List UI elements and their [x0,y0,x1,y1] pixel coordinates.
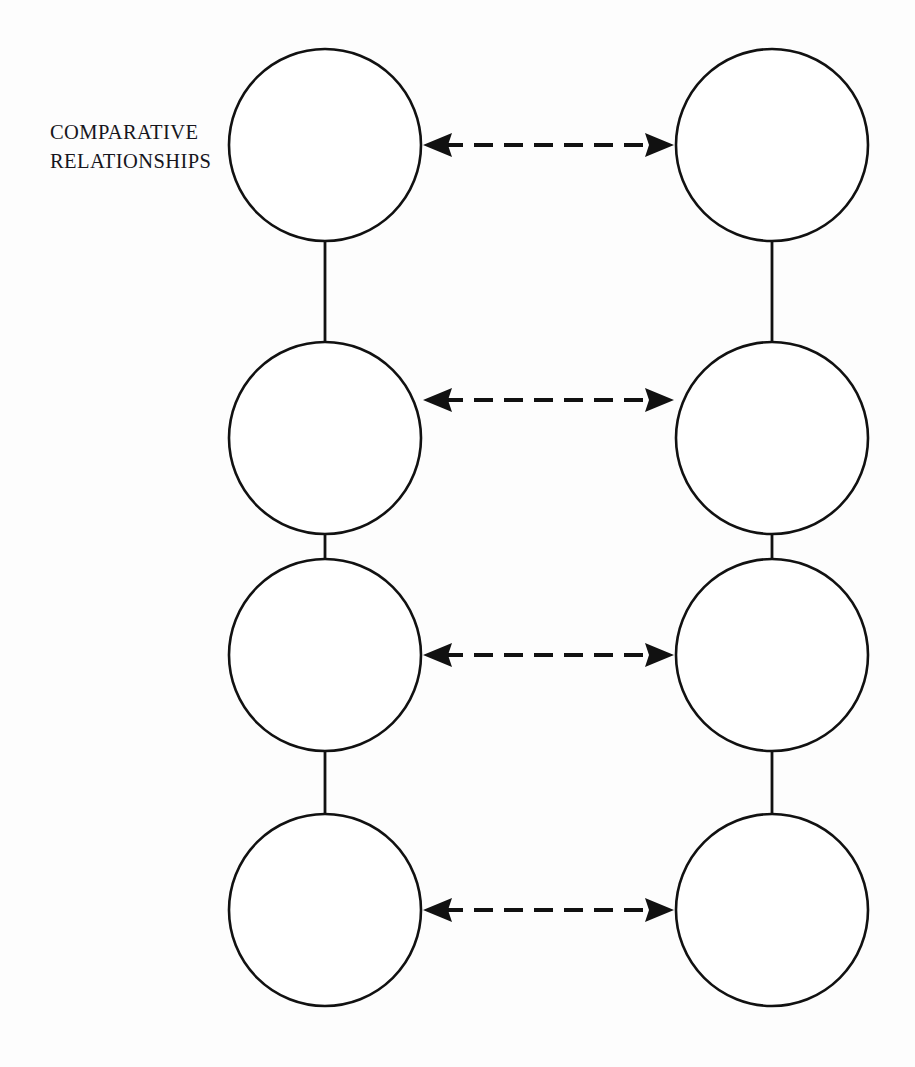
arrow-head-left-row-2 [423,388,452,412]
arrow-head-right-row-2 [645,388,674,412]
arrow-head-left-row-4 [423,898,452,922]
node-right-1[interactable] [676,49,868,241]
comparative-relationships-label: COMPARATIVE RELATIONSHIPS [50,118,250,176]
arrow-head-right-row-3 [645,643,674,667]
arrow-head-right-row-1 [645,133,674,157]
nodes-left-column [229,49,421,1006]
node-right-4[interactable] [676,814,868,1006]
node-left-2[interactable] [229,342,421,534]
node-left-3[interactable] [229,559,421,751]
node-left-4[interactable] [229,814,421,1006]
node-right-3[interactable] [676,559,868,751]
comparative-arrow-row-4 [423,898,674,922]
comparative-arrow-row-3 [423,643,674,667]
node-left-1[interactable] [229,49,421,241]
comparative-arrow-row-2 [423,388,674,412]
diagram-canvas: COMPARATIVE RELATIONSHIPS [0,0,915,1067]
comparative-arrow-row-1 [423,133,674,157]
node-right-2[interactable] [676,342,868,534]
arrow-head-right-row-4 [645,898,674,922]
nodes-right-column [676,49,868,1006]
arrow-head-left-row-3 [423,643,452,667]
arrow-head-left-row-1 [423,133,452,157]
